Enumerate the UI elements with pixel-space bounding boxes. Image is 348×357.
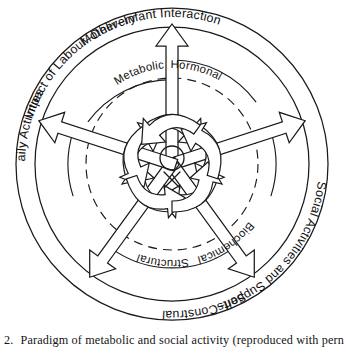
figure-caption: 2.Paradigm of metabolic and social activ…: [0, 333, 348, 357]
inner-label-metabolic: Metabolic: [112, 58, 165, 87]
caption-text: Paradigm of metabolic and social activit…: [20, 333, 344, 348]
figure-page: Impact of Labour–Delivery Daily Activiti…: [0, 0, 348, 357]
inner-band-arc-hormonal: [271, 132, 276, 196]
inner-band-arc-structural: [68, 132, 73, 196]
paradigm-diagram: Impact of Labour–Delivery Daily Activiti…: [0, 0, 348, 330]
outer-label-mother-infant-interaction: Mother–Infant Interaction: [77, 6, 222, 49]
caption-number: 2.: [0, 333, 20, 348]
